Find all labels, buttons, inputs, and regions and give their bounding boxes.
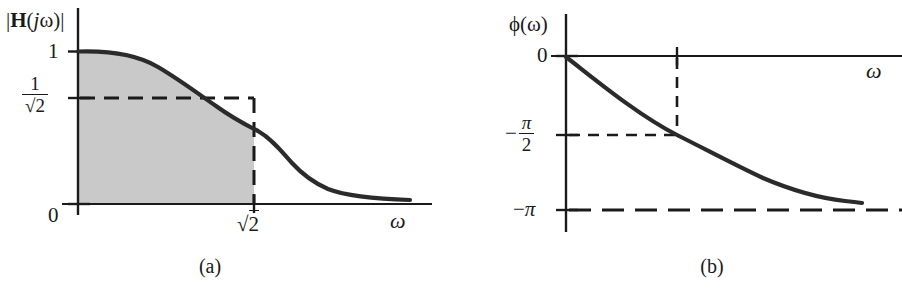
- minus-sign: −: [513, 197, 525, 221]
- y-tick-label-neg-pi-over-two: − π 2: [505, 113, 534, 155]
- radicand: 2: [249, 210, 260, 236]
- fraction-denominator: 2: [519, 133, 535, 154]
- radical-glyph: √: [25, 95, 35, 116]
- fraction-one-over-sqrt2: 1 √2: [22, 74, 48, 116]
- panel-b-x-axis-label: ω: [866, 60, 882, 82]
- fraction-numerator: π: [519, 113, 535, 133]
- radical-glyph: √: [237, 212, 249, 236]
- panel-b-y-axis-label: ϕ(ω): [509, 14, 548, 35]
- panel-a-caption: (a): [150, 255, 270, 278]
- y-tick-label-one-over-sqrt2: 1 √2: [22, 74, 48, 116]
- y-axis-label-text: ϕ(ω): [509, 12, 548, 36]
- y-tick-label-one: 1: [48, 41, 59, 62]
- y-tick-label-zero: 0: [48, 205, 59, 226]
- panel-a-y-axis-label: |H(jω)|: [6, 10, 64, 31]
- panel-a-plot: [0, 0, 451, 289]
- fraction-numerator: 1: [22, 74, 48, 94]
- panel-magnitude-response: |H(jω)| 1 1 √2 0 √2 ω (a): [0, 0, 451, 289]
- minus-sign: −: [505, 123, 519, 144]
- figure-root: |H(jω)| 1 1 √2 0 √2 ω (a): [0, 0, 902, 289]
- y-tick-label-neg-pi: −π: [513, 199, 535, 220]
- panel-a-x-axis-label: ω: [390, 210, 406, 232]
- y-tick-label-zero: 0: [537, 45, 548, 66]
- x-tick-label-sqrt2: √2: [237, 214, 259, 235]
- shaded-passband-region: [78, 52, 254, 204]
- radicand: 2: [35, 95, 45, 116]
- panel-b-caption: (b): [652, 255, 772, 278]
- panel-phase-response: ϕ(ω) 0 − π 2 −π √2 ω (b): [451, 0, 902, 289]
- pi-glyph: π: [525, 197, 536, 221]
- fraction-pi-over-two: π 2: [519, 113, 535, 155]
- phase-response-curve: [566, 57, 862, 203]
- y-axis-label-text: |H(jω)|: [6, 8, 64, 32]
- fraction-denominator: √2: [22, 94, 48, 115]
